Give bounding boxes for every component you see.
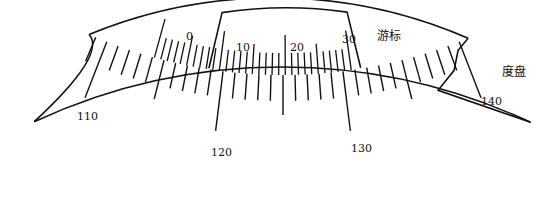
- vernier-tick: [259, 52, 260, 74]
- dial-tick: [295, 75, 296, 101]
- dial-tick: [448, 46, 457, 70]
- dial-tick: [145, 57, 152, 82]
- dial-tick: [232, 73, 235, 99]
- vernier-tick: [316, 44, 318, 74]
- dial-tick: [437, 50, 445, 75]
- dial-tick: [182, 65, 187, 90]
- dial-tick: [379, 65, 384, 90]
- vernier-tick: [239, 51, 241, 73]
- dial-tick: [270, 75, 271, 101]
- vernier-tick-label-30: 30: [342, 34, 356, 45]
- dial-tick-label-140: 140: [481, 96, 502, 107]
- vernier-tick: [200, 46, 204, 68]
- dial-tick: [109, 46, 118, 70]
- dial-inner-arc: [89, 0, 468, 38]
- vernier-protractor-diagram: 0 10 20 30 游标 度盘 110 120 130 140: [0, 0, 543, 197]
- vernier-tick-label-0: 0: [186, 31, 193, 42]
- dial-tick: [195, 68, 199, 94]
- dial-tick: [425, 54, 433, 79]
- vernier-tick: [342, 49, 345, 71]
- dial-and-vernier-drawing: [0, 0, 543, 197]
- dial-tick: [86, 37, 96, 61]
- dial-tick-label-110: 110: [77, 111, 98, 122]
- dial-tick: [390, 63, 396, 88]
- dial-tick: [307, 74, 308, 100]
- dial-tick: [207, 70, 211, 96]
- dial-tick: [319, 74, 321, 100]
- dial-tick: [367, 68, 371, 94]
- dial-left-edge: [438, 38, 530, 122]
- vernier-tick: [161, 38, 167, 59]
- dial-tick: [355, 70, 359, 96]
- dial-label: 度盘: [502, 66, 526, 78]
- dial-tick: [121, 50, 129, 75]
- vernier-tick: [174, 41, 179, 62]
- dial-tick-label-120: 120: [211, 147, 232, 158]
- dial-tick: [331, 73, 334, 99]
- vernier-tick: [252, 44, 254, 74]
- vernier-tick: [336, 50, 339, 72]
- vernier-tick: [265, 53, 266, 75]
- dial-tick: [459, 42, 481, 98]
- vernier-tick-label-20: 20: [290, 42, 304, 53]
- dial-tick: [170, 63, 176, 88]
- dial-tick: [245, 74, 247, 100]
- vernier-tick: [226, 50, 229, 72]
- vernier-tick: [310, 52, 311, 74]
- vernier-tick: [167, 40, 172, 61]
- dial-tick: [216, 71, 223, 131]
- vernier-tick: [193, 45, 197, 67]
- vernier-tick: [304, 53, 305, 75]
- dial-tick-label-130: 130: [351, 143, 372, 154]
- dial-tick: [85, 42, 107, 98]
- vernier-tick: [219, 31, 224, 71]
- dial-tick: [258, 74, 259, 100]
- dial-tick: [133, 54, 141, 79]
- vernier-tick: [246, 52, 248, 74]
- vernier-tick: [298, 53, 299, 75]
- vernier-tick: [180, 42, 185, 63]
- vernier-tick: [323, 51, 325, 73]
- dial-tick: [343, 71, 350, 131]
- vernier-tick-label-10: 10: [236, 42, 250, 53]
- dial-tick: [414, 57, 421, 82]
- vernier-label: 游标: [377, 30, 401, 42]
